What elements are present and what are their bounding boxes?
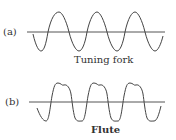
waveforms-svg — [0, 0, 176, 140]
panel-b-tag: (b) — [5, 96, 19, 107]
panel-a-tag: (a) — [3, 26, 17, 37]
panel-a-caption: Tuning fork — [74, 54, 133, 65]
panel-b-caption: Flute — [91, 124, 120, 135]
